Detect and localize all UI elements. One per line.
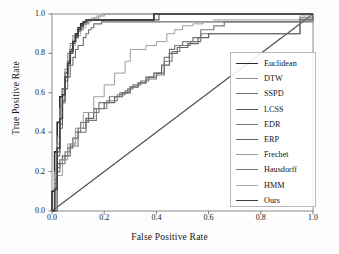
legend-item-label: SSPD — [264, 89, 284, 98]
x-tick-label: 1.0 — [298, 213, 328, 222]
legend-item-hmm[interactable]: HMM — [234, 178, 314, 193]
legend-line-swatch-icon — [236, 109, 258, 110]
legend-line-swatch-icon — [236, 185, 258, 186]
x-tick-label: 0.2 — [89, 213, 119, 222]
y-axis-label: True Positive Rate — [11, 18, 21, 178]
legend-item-label: DTW — [264, 74, 283, 83]
legend-item-label: Frechet — [264, 150, 289, 159]
legend-item-euclidean[interactable]: Euclidean — [234, 56, 314, 71]
x-tick-label: 0.8 — [246, 213, 276, 222]
legend-item-lcss[interactable]: LCSS — [234, 102, 314, 117]
y-tick-label: 1.0 — [21, 9, 45, 18]
legend-line-swatch-icon — [236, 139, 258, 140]
legend-item-ours[interactable]: Ours — [234, 193, 314, 208]
legend-item-sspd[interactable]: SSPD — [234, 86, 314, 101]
x-axis-label: False Positive Rate — [0, 232, 339, 242]
legend: EuclideanDTWSSPDLCSSEDRERPFrechetHausdor… — [230, 52, 316, 207]
legend-item-label: LCSS — [264, 105, 284, 114]
y-tick-label: 0.2 — [21, 167, 45, 176]
legend-item-frechet[interactable]: Frechet — [234, 147, 314, 162]
legend-line-swatch-icon — [236, 154, 258, 155]
legend-item-edr[interactable]: EDR — [234, 117, 314, 132]
y-tick-label: 0.6 — [21, 88, 45, 97]
legend-line-swatch-icon — [236, 78, 258, 79]
legend-item-label: ERP — [264, 135, 279, 144]
roc-curve-figure: False Positive Rate True Positive Rate 0… — [0, 0, 339, 254]
legend-line-swatch-icon — [236, 124, 258, 125]
y-tick-label: 0.8 — [21, 48, 45, 57]
legend-item-label: EDR — [264, 120, 280, 129]
legend-item-label: Hausdorff — [264, 165, 297, 174]
legend-item-dtw[interactable]: DTW — [234, 71, 314, 86]
x-tick-label: 0.4 — [141, 213, 171, 222]
legend-item-label: Ours — [264, 196, 280, 205]
legend-item-label: HMM — [264, 181, 284, 190]
legend-line-swatch-icon — [236, 169, 258, 170]
legend-line-swatch-icon — [236, 93, 258, 94]
legend-line-swatch-icon — [236, 200, 258, 201]
y-tick-label: 0.0 — [21, 206, 45, 215]
legend-line-swatch-icon — [236, 63, 258, 64]
legend-item-hausdorff[interactable]: Hausdorff — [234, 162, 314, 177]
y-tick-label: 0.4 — [21, 127, 45, 136]
legend-item-label: Euclidean — [264, 59, 297, 68]
legend-item-erp[interactable]: ERP — [234, 132, 314, 147]
x-tick-label: 0.6 — [194, 213, 224, 222]
